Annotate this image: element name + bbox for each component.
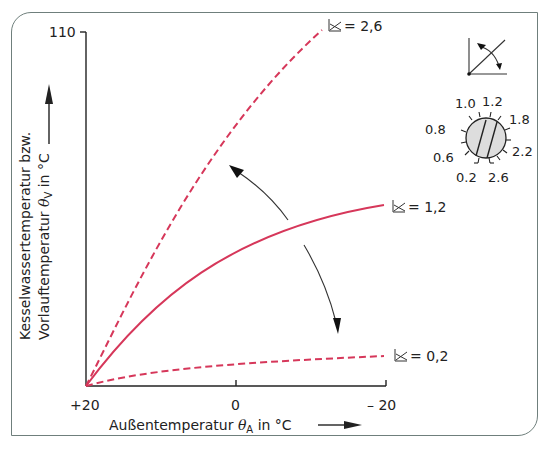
steepness-symbol-icon: [393, 200, 405, 212]
curve-label-2-6: = 2,6: [329, 18, 383, 34]
y-axis-arrow-icon: [45, 84, 53, 144]
heating-curve-dial[interactable]: 1.0 1.2 1.8 2.2 2.6 0.2 0.6 0.8: [425, 94, 533, 185]
x-axis-arrow-icon: [318, 421, 362, 429]
curve-2-6: [86, 30, 322, 386]
curve-label-1-2: = 1,2: [393, 199, 446, 215]
x-tick-label-minus20: – 20: [367, 397, 396, 413]
dial-label-0-2: 0.2: [456, 170, 477, 185]
y-tick-label-110: 110: [49, 24, 76, 40]
curve-0-2: [86, 356, 384, 386]
dial-label-0-6: 0.6: [433, 150, 454, 165]
svg-text:Vorlauftemperatur θV in °C: Vorlauftemperatur θV in °C: [36, 153, 54, 340]
dial-label-1-2: 1.2: [482, 94, 503, 109]
heating-curve-chart: 110 +20 0 – 20 Außentemperatur θA in °C …: [0, 0, 549, 452]
dial-label-1-0: 1.0: [455, 96, 476, 111]
x-tick-label-plus20: +20: [70, 397, 100, 413]
steepness-symbol-icon: [395, 349, 407, 361]
svg-text:Kesselwassertemperatur bzw.: Kesselwassertemperatur bzw.: [17, 132, 33, 340]
angle-adjust-icon: [467, 38, 507, 76]
svg-text:= 0,2: = 0,2: [410, 348, 448, 364]
x-axis-label: Außentemperatur θA in °C: [109, 417, 292, 435]
svg-text:= 2,6: = 2,6: [344, 18, 383, 34]
steepness-double-arrow-icon: [229, 165, 341, 334]
x-tick-label-0: 0: [231, 397, 240, 413]
dial-label-0-8: 0.8: [425, 122, 446, 137]
dial-label-1-8: 1.8: [509, 112, 530, 127]
svg-text:= 1,2: = 1,2: [408, 199, 446, 215]
axes: [80, 32, 386, 386]
dial-label-2-6: 2.6: [488, 170, 509, 185]
steepness-symbol-icon: [329, 19, 341, 31]
curve-label-0-2: = 0,2: [395, 348, 448, 364]
curves: [86, 30, 384, 386]
dial-label-2-2: 2.2: [512, 144, 533, 159]
y-axis-label: Kesselwassertemperatur bzw. Vorlauftempe…: [17, 132, 54, 340]
